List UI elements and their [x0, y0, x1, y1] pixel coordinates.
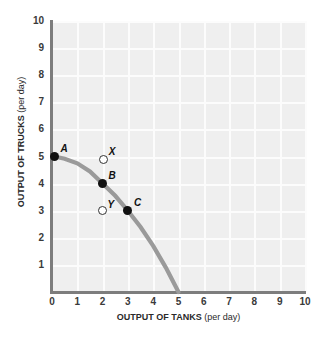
y-axis-title-bold: OUTPUT OF TRUCKS: [16, 115, 26, 207]
x-tick-label: 7: [219, 296, 239, 308]
x-axis-line: [50, 291, 306, 294]
chart-figure: ABCXY 012345678910 12345678910 OUTPUT OF…: [0, 0, 331, 343]
x-axis-title: OUTPUT OF TANKS (per day): [52, 312, 305, 322]
x-tick-label: 3: [118, 296, 138, 308]
x-axis-title-bold: OUTPUT OF TANKS: [117, 312, 202, 322]
y-tick-label: 7: [28, 96, 44, 108]
y-tick-label: 3: [28, 205, 44, 217]
x-tick-label: 5: [169, 296, 189, 308]
y-axis-title-unit: (per day): [16, 77, 26, 113]
y-tick-label: 1: [28, 259, 44, 271]
gridline-horizontal: [52, 265, 305, 267]
data-point-a[interactable]: [50, 152, 59, 161]
y-tick-label: 5: [28, 151, 44, 163]
x-tick-label: 9: [270, 296, 290, 308]
gridline-horizontal: [52, 48, 305, 50]
y-tick-label: 10: [28, 15, 44, 27]
data-point-label-x: X: [109, 147, 116, 157]
data-point-label-a: A: [61, 144, 68, 154]
x-axis-title-unit: (per day): [204, 312, 240, 322]
x-tick-label: 8: [244, 296, 264, 308]
data-point-label-c: C: [134, 198, 141, 208]
x-tick-label: 2: [93, 296, 113, 308]
gridline-horizontal: [52, 21, 305, 23]
y-tick-label: 4: [28, 178, 44, 190]
gridline-horizontal: [52, 184, 305, 186]
gridline-horizontal: [52, 157, 305, 159]
y-axis-title: OUTPUT OF TRUCKS (per day): [16, 7, 30, 278]
x-tick-label: 0: [42, 296, 62, 308]
gridline-horizontal: [52, 75, 305, 77]
gridline-horizontal: [52, 102, 305, 104]
x-tick-label: 4: [143, 296, 163, 308]
data-point-label-b: B: [109, 171, 116, 181]
y-tick-label: 9: [28, 42, 44, 54]
y-tick-label: 8: [28, 69, 44, 81]
gridline-horizontal: [52, 211, 305, 213]
gridline-horizontal: [52, 129, 305, 131]
plot-area: [52, 21, 305, 292]
data-point-label-y: Y: [108, 200, 115, 210]
y-tick-label: 6: [28, 123, 44, 135]
x-tick-label: 10: [295, 296, 315, 308]
y-tick-label: 2: [28, 232, 44, 244]
x-tick-label: 1: [67, 296, 87, 308]
gridline-horizontal: [52, 238, 305, 240]
x-tick-label: 6: [194, 296, 214, 308]
gridline-vertical: [305, 21, 307, 292]
